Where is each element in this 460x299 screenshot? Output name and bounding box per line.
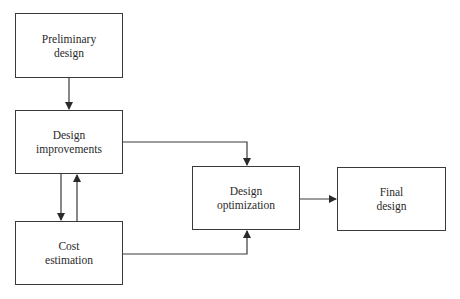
node-label-line: Preliminary: [42, 32, 96, 46]
node-label-line: improvements: [36, 142, 102, 156]
node-label-line: Final: [376, 185, 406, 199]
node-label-line: Design: [36, 128, 102, 142]
arrow-cost-to-optimization: [123, 231, 247, 254]
node-cost-estimation: Cost estimation: [15, 221, 123, 285]
node-design-optimization: Design optimization: [192, 166, 300, 230]
node-label-line: Cost: [45, 239, 93, 253]
node-label-line: optimization: [217, 198, 275, 212]
node-label-line: design: [376, 199, 406, 213]
node-label-line: Design: [217, 184, 275, 198]
arrow-improvements-to-optimization: [123, 142, 247, 165]
node-final-design: Final design: [337, 167, 446, 231]
node-preliminary-design: Preliminary design: [15, 13, 123, 78]
node-label-line: design: [42, 46, 96, 60]
node-label-line: estimation: [45, 253, 93, 267]
node-design-improvements: Design improvements: [15, 110, 123, 174]
